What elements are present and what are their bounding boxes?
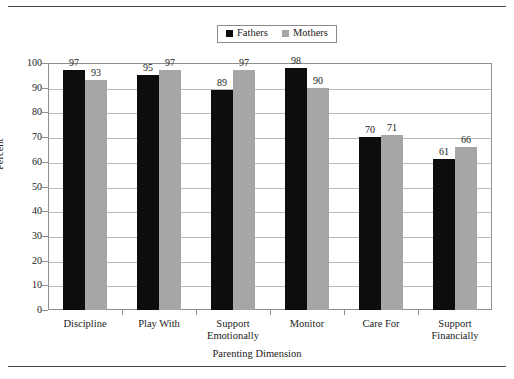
gridline (49, 163, 491, 164)
x-tick-mark (270, 310, 271, 315)
y-tick-mark (42, 261, 48, 262)
y-tick-mark (42, 236, 48, 237)
x-tick-label: SupportFinancially (407, 318, 503, 342)
gridline (49, 113, 491, 114)
gridline (49, 138, 491, 139)
y-tick-mark (42, 88, 48, 89)
chart-legend: FathersMothers (217, 25, 337, 43)
gridline (49, 212, 491, 213)
y-tick-mark (42, 137, 48, 138)
y-tick-label: 100 (4, 58, 42, 68)
y-tick-label: 80 (4, 107, 42, 117)
legend-entry-fathers: Fathers (226, 28, 268, 39)
page-rule-top (8, 6, 506, 7)
x-tick-mark (344, 310, 345, 315)
y-tick-label: 40 (4, 206, 42, 216)
y-tick-mark (42, 211, 48, 212)
y-tick-mark (42, 285, 48, 286)
y-axis-title: Percent (0, 139, 5, 171)
y-tick-label: 30 (4, 231, 42, 241)
x-tick-label-line1: Support (407, 318, 503, 330)
legend-swatch-icon (282, 30, 289, 37)
x-tick-mark (418, 310, 419, 315)
gridline (49, 237, 491, 238)
y-tick-mark (42, 112, 48, 113)
legend-swatch-icon (226, 30, 233, 37)
plot-area (48, 63, 492, 310)
y-tick-label: 50 (4, 182, 42, 192)
y-tick-mark (42, 310, 48, 311)
x-tick-label-line2: Emotionally (185, 330, 281, 342)
y-tick-mark (42, 63, 48, 64)
clipped-header-text (8, 0, 506, 4)
y-tick-label: 20 (4, 256, 42, 266)
y-tick-label: 10 (4, 280, 42, 290)
y-tick-mark (42, 162, 48, 163)
legend-label: Mothers (293, 28, 328, 39)
page-rule-bottom (8, 366, 506, 367)
y-tick-label: 70 (4, 132, 42, 142)
y-tick-mark (42, 187, 48, 188)
x-tick-mark (196, 310, 197, 315)
y-tick-label: 90 (4, 83, 42, 93)
y-tick-label: 60 (4, 157, 42, 167)
gridline (49, 286, 491, 287)
gridline (49, 262, 491, 263)
gridline (49, 188, 491, 189)
x-axis-title: Parenting Dimension (0, 348, 514, 359)
x-tick-label-line2: Financially (407, 330, 503, 342)
y-tick-label: 0 (4, 305, 42, 315)
gridline (49, 89, 491, 90)
legend-label: Fathers (237, 28, 268, 39)
x-tick-mark (122, 310, 123, 315)
legend-entry-mothers: Mothers (282, 28, 328, 39)
